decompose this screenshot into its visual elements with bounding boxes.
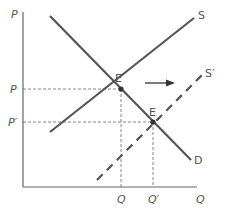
quantity-label-q: Q	[117, 193, 126, 206]
shifted-supply-label: S′	[205, 67, 215, 80]
equilibrium-label-e: E	[149, 106, 156, 119]
equilibrium-point-e	[150, 119, 155, 124]
supply-label: S	[198, 9, 205, 22]
price-label-p-prime: P′	[8, 116, 18, 129]
quantity-label-q-prime: Q′	[148, 193, 160, 206]
arrow-right-icon	[166, 80, 175, 87]
supply-demand-diagram: P Q S S′ D E′ E P P′ Q Q′	[0, 0, 228, 212]
x-axis-label: Q	[196, 193, 205, 206]
y-axis-label: P	[11, 8, 18, 21]
equilibrium-label-e-prime: E′	[115, 72, 125, 85]
price-label-p: P	[10, 83, 17, 96]
demand-label: D	[194, 154, 202, 167]
equilibrium-point-e-prime	[118, 86, 123, 91]
